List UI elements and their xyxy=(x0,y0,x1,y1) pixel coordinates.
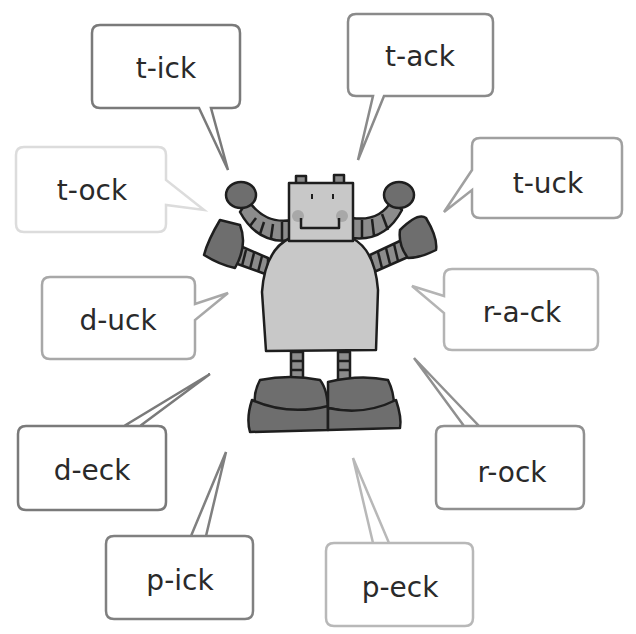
robot-head xyxy=(289,175,353,241)
speech-bubble-t-uck: t-uck xyxy=(444,138,622,218)
bubble-label: t-uck xyxy=(513,167,584,200)
speech-bubble-t-ack: t-ack xyxy=(348,14,493,160)
bubble-outline xyxy=(18,374,210,510)
speech-bubble-d-eck: d-eck xyxy=(18,374,210,510)
bubble-label: t-ick xyxy=(136,52,197,85)
bubble-label: r-a-ck xyxy=(483,296,562,329)
robot-left-hand xyxy=(226,182,256,208)
bubble-label: t-ock xyxy=(57,174,128,207)
robot-illustration xyxy=(204,175,436,432)
speech-bubble-t-ock: t-ock xyxy=(16,147,204,232)
robot-body xyxy=(262,238,378,351)
worksheet-canvas: t-ick t-ack t-ock t-uck d-uck r-a-ck d-e… xyxy=(0,0,636,634)
speech-bubble-r-a-ck: r-a-ck xyxy=(412,269,598,350)
bubble-label: p-eck xyxy=(362,571,439,604)
speech-bubble-d-uck: d-uck xyxy=(42,277,228,359)
bubble-label: d-eck xyxy=(54,454,131,487)
robot-legs xyxy=(291,352,350,380)
robot-left-cup xyxy=(204,220,243,268)
robot-feet xyxy=(248,377,400,432)
bubble-outline xyxy=(348,14,493,160)
bubble-label: r-ock xyxy=(477,456,547,489)
bubble-label: p-ick xyxy=(146,564,214,597)
bubble-label: d-uck xyxy=(79,304,157,337)
robot-right-cup xyxy=(400,217,437,259)
robot-right-hand xyxy=(384,182,414,208)
speech-bubble-r-ock: r-ock xyxy=(414,358,584,509)
bubble-label: t-ack xyxy=(385,40,456,73)
